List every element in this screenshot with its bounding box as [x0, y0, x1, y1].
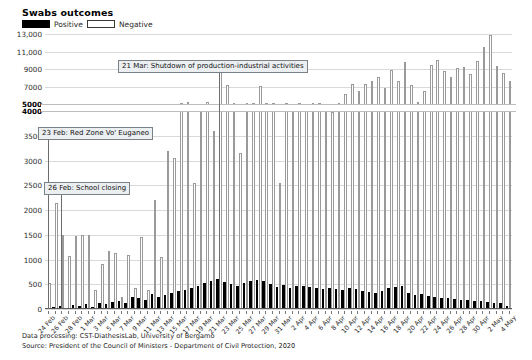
bar-group: [446, 30, 453, 309]
x-axis-tick: [463, 311, 464, 314]
x-axis-tick: [331, 311, 332, 314]
x-axis-tick: [167, 311, 168, 314]
x-axis-tick: [450, 311, 451, 314]
bar-group: [65, 30, 72, 309]
x-axis-tick: [186, 311, 187, 314]
bar-group: [486, 30, 493, 309]
bar-group: [492, 30, 499, 309]
annotation-shutdown-line: [219, 72, 220, 309]
x-axis-tick: [502, 311, 503, 314]
footer-credits: Data processing: CST-DiathesisLab, Unive…: [22, 332, 295, 351]
x-axis-tick: [305, 311, 306, 314]
annotation-school-closing-line: [61, 194, 62, 309]
bar-group: [433, 30, 440, 309]
x-axis-tick: [325, 311, 326, 314]
y-axis-tick-label: 5000: [22, 100, 42, 109]
bar-group: [380, 30, 387, 309]
bar-group: [440, 30, 447, 309]
x-axis-tick: [272, 311, 273, 314]
bar-group: [367, 30, 374, 309]
x-axis-tick-label: 4 Apr: [303, 314, 320, 332]
bar-group: [394, 30, 401, 309]
x-axis-tick: [285, 311, 286, 314]
bar-group: [420, 30, 427, 309]
bar-negative: [509, 81, 512, 310]
x-axis-tick: [259, 311, 260, 314]
bar-group: [52, 30, 59, 309]
axis-break-edge: [41, 111, 516, 112]
y-axis-labels: 0500100015002000250030003500400050007000…: [0, 30, 42, 309]
x-axis-tick: [279, 311, 280, 314]
x-axis-tick: [219, 311, 220, 314]
x-axis-tick: [147, 311, 148, 314]
x-axis-tick: [193, 311, 194, 314]
x-axis-tick: [48, 311, 49, 314]
legend-label-positive: Positive: [54, 20, 83, 29]
y-axis-tick-label: 1500: [24, 230, 42, 239]
x-axis-tick: [469, 311, 470, 314]
bar-group: [400, 30, 407, 309]
x-axis-tick: [252, 311, 253, 314]
x-axis-tick: [443, 311, 444, 314]
x-axis-tick: [496, 311, 497, 314]
x-axis-tick: [94, 311, 95, 314]
x-axis-tick: [127, 311, 128, 314]
bar-group: [459, 30, 466, 309]
x-axis-tick: [311, 311, 312, 314]
x-axis-tick: [456, 311, 457, 314]
bar-group: [328, 30, 335, 309]
x-axis-tick: [489, 311, 490, 314]
bar-group: [453, 30, 460, 309]
x-axis-tick: [384, 311, 385, 314]
x-axis-tick: [298, 311, 299, 314]
footer-line-1: Data processing: CST-DiathesisLab, Unive…: [22, 332, 295, 342]
legend: Positive Negative: [22, 19, 153, 29]
x-axis-tick: [107, 311, 108, 314]
x-axis-tick: [410, 311, 411, 314]
x-axis-tick: [101, 311, 102, 314]
bar-group: [499, 30, 506, 309]
x-axis-tick: [55, 311, 56, 314]
y-axis-tick-label: 1000: [24, 255, 42, 264]
x-axis-line: [45, 308, 512, 309]
x-axis-tick: [265, 311, 266, 314]
bar-group: [374, 30, 381, 309]
annotation-red-zone: 23 Feb: Red Zone Vo' Euganeo: [38, 127, 153, 140]
x-axis-tick: [403, 311, 404, 314]
page-title: Swabs outcomes: [22, 7, 113, 18]
bar-group: [334, 30, 341, 309]
bar-group: [104, 30, 111, 309]
axis-break-edge: [41, 104, 516, 105]
y-axis-tick-label: 2500: [24, 181, 42, 190]
x-axis-tick-label: 6 Apr: [316, 314, 333, 332]
x-axis-tick: [390, 311, 391, 314]
bar-group: [479, 30, 486, 309]
bar-group: [111, 30, 118, 309]
x-axis-tick: [397, 311, 398, 314]
x-axis-tick: [114, 311, 115, 314]
bar-group: [91, 30, 98, 309]
x-axis-tick: [482, 311, 483, 314]
annotation-school-closing: 26 Feb: School closing: [44, 182, 130, 195]
bar-group: [413, 30, 420, 309]
x-axis-tick: [292, 311, 293, 314]
x-axis-tick: [364, 311, 365, 314]
bar-group: [308, 30, 315, 309]
x-axis-tick: [338, 311, 339, 314]
x-axis-tick: [206, 311, 207, 314]
bar-group: [387, 30, 394, 309]
y-axis-tick-label: 3000: [24, 156, 42, 165]
x-axis-tick: [134, 311, 135, 314]
x-axis-tick: [68, 311, 69, 314]
bar-group: [71, 30, 78, 309]
y-axis-tick-label: 9000: [24, 65, 42, 74]
x-axis-tick: [246, 311, 247, 314]
legend-swatch-positive: [22, 20, 50, 28]
x-axis-tick: [509, 311, 510, 314]
x-axis-tick: [436, 311, 437, 314]
x-axis-tick: [81, 311, 82, 314]
x-axis-tick: [476, 311, 477, 314]
x-axis-tick: [88, 311, 89, 314]
x-axis-tick: [180, 311, 181, 314]
legend-label-negative: Negative: [119, 20, 153, 29]
